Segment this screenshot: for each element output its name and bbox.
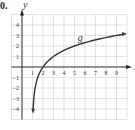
x-tick-label: 6 [84, 70, 87, 76]
y-tick-label: 3 [16, 33, 19, 39]
y-tick-label: −4 [13, 106, 19, 112]
y-tick-label: −1 [13, 75, 19, 81]
x-tick-label: 7 [94, 70, 97, 76]
y-axis-label: y [22, 0, 28, 10]
x-axis-label: x [133, 61, 135, 72]
x-tick-label: 9 [115, 70, 118, 76]
x-tick-label: 5 [73, 70, 76, 76]
y-tick-label: 1 [16, 54, 19, 60]
x-tick-label: 1 [31, 70, 34, 76]
y-tick-label: −2 [13, 85, 19, 91]
curve-start-arrow-icon [31, 109, 35, 114]
x-tick-label: 8 [105, 70, 108, 76]
x-tick-label: 3 [52, 70, 55, 76]
x-tick-label: 2 [42, 70, 45, 76]
x-axis-arrow-icon [126, 65, 132, 69]
curve-label: g [78, 32, 83, 43]
y-tick-label: 4 [16, 22, 19, 28]
chart: 123456789−4−3−2−11234xyg [0, 0, 135, 130]
y-tick-label: 2 [16, 43, 19, 49]
y-tick-label: −3 [13, 96, 19, 102]
x-tick-label: 4 [63, 70, 66, 76]
y-axis-arrow-icon [20, 10, 24, 16]
